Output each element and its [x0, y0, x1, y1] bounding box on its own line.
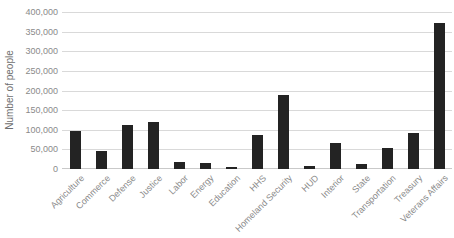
bar-labor	[174, 162, 185, 169]
bar-chart: Number of people 050,000100,000150,00020…	[0, 0, 454, 238]
gridline	[62, 110, 452, 111]
gridline	[62, 71, 452, 72]
bar-transportation	[382, 148, 393, 169]
x-label-justice: Justice	[137, 173, 164, 200]
bar-justice	[148, 122, 159, 169]
x-label-defense: Defense	[107, 173, 138, 204]
bar-defense	[122, 125, 133, 169]
gridline	[62, 12, 452, 13]
y-tick-label-350000: 350,000	[25, 27, 58, 37]
gridline	[62, 51, 452, 52]
y-tick-label-400000: 400,000	[25, 7, 58, 17]
gridline	[62, 32, 452, 33]
x-label-hhs: HHS	[248, 173, 269, 194]
x-label-hud: HUD	[299, 173, 320, 194]
bar-hud	[304, 166, 315, 169]
y-tick-label-300000: 300,000	[25, 46, 58, 56]
bar-energy	[200, 163, 211, 169]
plot-area	[62, 12, 452, 169]
bar-veterans-affairs	[434, 23, 445, 169]
bar-agriculture	[70, 131, 81, 169]
y-tick-label-200000: 200,000	[25, 86, 58, 96]
x-label-interior: Interior	[319, 173, 346, 200]
gridline	[62, 91, 452, 92]
y-tick-label-250000: 250,000	[25, 66, 58, 76]
y-tick-label-100000: 100,000	[25, 125, 58, 135]
x-label-labor: Labor	[167, 173, 190, 196]
bar-education	[226, 167, 237, 169]
x-label-veterans-affairs: Veterans Affairs	[399, 173, 451, 225]
bar-homeland-security	[278, 95, 289, 169]
bar-commerce	[96, 151, 107, 169]
bar-hhs	[252, 135, 263, 169]
y-axis-title: Number of people	[4, 50, 15, 130]
bar-state	[356, 164, 367, 169]
y-tick-label-50000: 50,000	[30, 144, 58, 154]
bar-treasury	[408, 133, 419, 169]
x-label-state: State	[350, 173, 372, 195]
y-tick-label-0: 0	[53, 164, 58, 174]
bar-interior	[330, 143, 341, 169]
y-tick-label-150000: 150,000	[25, 105, 58, 115]
gridline	[62, 130, 452, 131]
